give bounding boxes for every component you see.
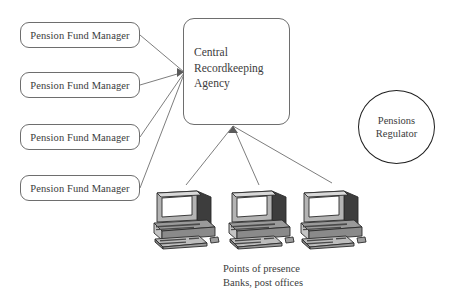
edge-pfm-1-to-agency: [140, 35, 184, 72]
pension-fund-manager-label: Pension Fund Manager: [30, 80, 129, 91]
points-of-presence-caption: Points of presence Banks, post offices: [223, 262, 383, 289]
edge-agency-to-terminal-2: [233, 126, 259, 185]
pensions-regulator-circle[interactable]: Pensions Regulator: [358, 90, 435, 164]
pension-fund-manager-box[interactable]: Pension Fund Manager: [20, 124, 140, 150]
desktop-computer-icon: [224, 187, 296, 251]
pension-fund-manager-box[interactable]: Pension Fund Manager: [20, 175, 140, 201]
caption-line-2: Banks, post offices: [223, 276, 383, 290]
edge-agency-to-terminal-3: [233, 126, 332, 183]
pension-fund-manager-label: Pension Fund Manager: [30, 132, 129, 143]
arrowhead-from-agency: [228, 126, 238, 133]
edge-pfm-3-to-agency: [140, 73, 184, 137]
central-agency-label-line-3: Agency: [194, 76, 289, 92]
pensions-regulator-label-line-2: Regulator: [376, 127, 417, 140]
desktop-computer-icon: [149, 187, 221, 251]
pensions-regulator-label-line-1: Pensions: [378, 114, 415, 127]
edge-pfm-4-to-agency: [140, 74, 184, 188]
desktop-computer-icon: [296, 187, 368, 251]
pension-fund-manager-label: Pension Fund Manager: [30, 30, 129, 41]
edge-agency-to-terminal-1: [186, 126, 233, 185]
central-agency-label-line-2: Recordkeeping: [194, 61, 289, 77]
central-recordkeeping-agency-box[interactable]: Central Recordkeeping Agency: [183, 18, 290, 125]
caption-line-1: Points of presence: [223, 262, 383, 276]
pension-fund-manager-box[interactable]: Pension Fund Manager: [20, 72, 140, 98]
edge-pfm-2-to-agency: [140, 72, 184, 85]
central-agency-label-line-1: Central: [194, 45, 289, 61]
pension-fund-manager-box[interactable]: Pension Fund Manager: [20, 22, 140, 48]
pension-fund-manager-label: Pension Fund Manager: [30, 183, 129, 194]
diagram-canvas: Pension Fund Manager Pension Fund Manage…: [0, 0, 454, 299]
